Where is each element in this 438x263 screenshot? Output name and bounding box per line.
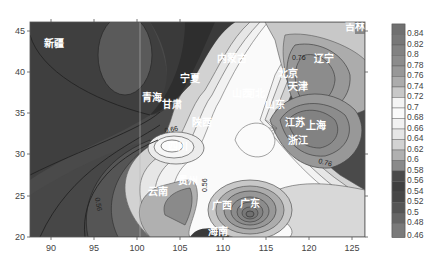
x-tick-label: 125 — [344, 243, 359, 253]
province-label: 贵州 — [178, 174, 198, 186]
province-label: 广东 — [240, 197, 260, 209]
province-label: 甘肃 — [162, 98, 182, 110]
colorbar: 0.84 0.82 0.8 0.78 0.76 0.74 0.72 0.7 0.… — [392, 24, 424, 240]
colorbar-label: 0.62 — [407, 144, 424, 154]
colorbar-label: 0.72 — [407, 91, 424, 101]
colorbar-label: 0.66 — [407, 123, 424, 133]
x-tick-label: 115 — [259, 243, 273, 253]
province-label: 上海 — [306, 119, 326, 131]
x-tick-label: 100 — [129, 243, 144, 253]
colorbar-label: 0.46 — [407, 230, 424, 240]
y-tick-label: 20 — [15, 232, 25, 242]
colorbar-label: 0.64 — [407, 133, 424, 143]
colorbar-label: 0.58 — [407, 165, 424, 175]
x-tick-label: 95 — [89, 243, 99, 253]
province-label: 江苏 — [285, 116, 305, 128]
contour-label: 0.76 — [292, 54, 306, 61]
colorbar-label: 0.6 — [407, 154, 419, 164]
colorbar-label: 0.82 — [407, 39, 424, 49]
province-label: 内蒙古 — [217, 52, 247, 64]
colorbar-label: 0.48 — [407, 217, 424, 227]
y-tick-label: 30 — [15, 149, 25, 159]
x-tick-label: 105 — [172, 243, 187, 253]
y-tick-label: 35 — [15, 108, 25, 118]
province-label: 广西 — [212, 199, 232, 211]
x-tick-label: 90 — [46, 243, 56, 253]
colorbar-label: 0.8 — [407, 49, 419, 59]
x-tick-label: 110 — [216, 243, 230, 253]
province-label: 青海 — [142, 91, 162, 103]
colorbar-label: 0.5 — [407, 207, 419, 217]
contour-chart: 0.76 0.66 0.76 0.56 0.56 新疆 宁夏 青海 甘肃 内蒙古… — [0, 0, 438, 263]
colorbar-label: 0.68 — [407, 112, 424, 122]
province-label: 云南 — [148, 185, 168, 197]
province-label: 天津 — [288, 80, 308, 92]
province-label: 陕西 — [192, 116, 212, 128]
province-label: 北京 — [278, 67, 298, 79]
province-label: 辽宁 — [314, 52, 334, 64]
colorbar-label: 0.76 — [407, 70, 424, 80]
contour-label: 0.56 — [201, 178, 208, 192]
colorbar-label: 0.74 — [407, 81, 424, 91]
colorbar-label: 0.52 — [407, 196, 424, 206]
y-tick-label: 40 — [15, 67, 25, 77]
province-label: 山西 — [232, 87, 252, 99]
colorbar-label: 0.54 — [407, 186, 424, 196]
y-tick-label: 45 — [15, 26, 25, 36]
colorbar-label: 0.56 — [407, 175, 424, 185]
x-tick-label: 120 — [301, 243, 316, 253]
province-label: 四川 — [168, 141, 188, 152]
province-label: 山东 — [265, 98, 285, 110]
province-label: 浙江 — [288, 134, 308, 146]
colorbar-label: 0.7 — [407, 102, 419, 112]
y-tick-label: 25 — [15, 191, 25, 201]
province-label: 新疆 — [44, 37, 64, 49]
colorbar-label: 0.78 — [407, 60, 424, 70]
province-label: 宁夏 — [180, 72, 201, 84]
colorbar-label: 0.84 — [407, 28, 424, 38]
province-label: 海南 — [208, 225, 228, 237]
